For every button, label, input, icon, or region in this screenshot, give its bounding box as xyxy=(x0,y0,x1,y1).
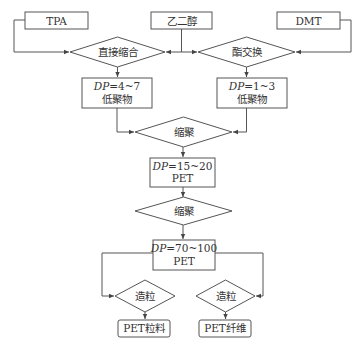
process-pelletize-right: 造粒 xyxy=(196,280,255,312)
process-pelletize-left: 造粒 xyxy=(115,280,175,312)
oligomer-right-dp: DP=1~3 xyxy=(228,80,275,92)
pet-low-box: DP=15~20 PET xyxy=(150,158,215,187)
process-polycondensation-1-label: 缩聚 xyxy=(174,126,195,138)
process-direct-esterification-label: 直接缩合 xyxy=(98,46,139,58)
input-tpa-label: TPA xyxy=(46,15,67,27)
process-polycondensation-2-label: 缩聚 xyxy=(174,205,195,217)
process-polycondensation-1: 缩聚 xyxy=(135,117,232,147)
pet-low-name: PET xyxy=(172,172,194,184)
dp-label: DP xyxy=(150,242,167,254)
dp-value: =4~7 xyxy=(109,80,140,92)
process-pelletize-right-label: 造粒 xyxy=(216,290,237,302)
process-transesterification-label: 酯交换 xyxy=(232,46,263,58)
process-pelletize-left-label: 造粒 xyxy=(135,290,156,302)
pet-high-box: DP=70~100 PET xyxy=(150,240,217,270)
dp-label: DP xyxy=(152,160,169,172)
oligomer-left-box: DP=4~7 低聚物 xyxy=(82,78,152,108)
pet-low-dp: DP=15~20 xyxy=(152,160,213,172)
dp-value: =15~20 xyxy=(168,160,212,172)
oligomer-left-name: 低聚物 xyxy=(102,93,132,105)
connector-oligomer-right-to-poly1 xyxy=(233,108,247,132)
input-eg-box: 乙二醇 xyxy=(151,12,212,29)
flowchart: TPA 乙二醇 DMT 直接缩合 酯交换 DP=4~7 低聚物 DP=1~3 低… xyxy=(0,0,364,351)
oligomer-right-name: 低聚物 xyxy=(237,93,267,105)
dp-value: =70~100 xyxy=(166,242,217,254)
input-tpa-box: TPA xyxy=(25,12,88,29)
output-fiber-label: PET纤维 xyxy=(204,322,247,334)
pet-high-name: PET xyxy=(173,255,195,267)
oligomer-right-box: DP=1~3 低聚物 xyxy=(217,78,287,108)
output-pellets-box: PET粒料 xyxy=(118,320,170,337)
oligomer-left-dp: DP=4~7 xyxy=(93,80,140,92)
process-transesterification: 酯交换 xyxy=(198,37,295,67)
input-dmt-label: DMT xyxy=(295,15,321,27)
output-fiber-box: PET纤维 xyxy=(199,320,251,337)
output-pellets-label: PET粒料 xyxy=(123,322,166,334)
input-eg-label: 乙二醇 xyxy=(167,15,198,27)
input-dmt-box: DMT xyxy=(277,12,340,29)
dp-label: DP xyxy=(228,80,245,92)
process-polycondensation-2: 缩聚 xyxy=(135,197,232,225)
dp-value: =1~3 xyxy=(244,80,275,92)
pet-high-dp: DP=70~100 xyxy=(150,242,217,254)
connector-oligomer-left-to-poly1 xyxy=(117,108,134,132)
process-direct-esterification: 直接缩合 xyxy=(70,37,165,67)
dp-label: DP xyxy=(93,80,110,92)
